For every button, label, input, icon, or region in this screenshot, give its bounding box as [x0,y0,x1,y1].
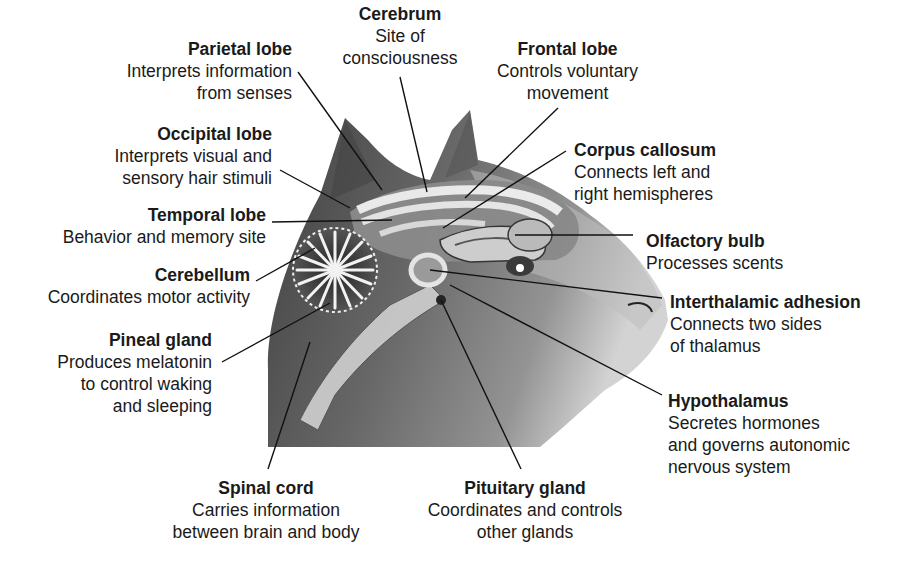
label-pineal-gland: Pineal gland Produces melatonin to contr… [20,329,212,417]
label-title: Olfactory bulb [646,230,846,252]
label-title: Frontal lobe [475,38,660,60]
label-desc: other glands [405,521,645,543]
label-desc: Coordinates motor activity [0,286,250,308]
label-title: Interthalamic adhesion [670,291,908,313]
label-desc: Carries information [148,499,384,521]
label-parietal-lobe: Parietal lobe Interprets information fro… [60,38,292,104]
label-desc: Controls voluntary [475,60,660,82]
label-desc: Produces melatonin [20,351,212,373]
label-title: Temporal lobe [20,204,266,226]
label-desc: right hemispheres [574,183,774,205]
cat-brain-diagram: Cerebrum Site of consciousness Parietal … [0,0,908,572]
cerebellum-illustration [293,228,377,312]
label-desc: and governs autonomic [668,434,898,456]
label-desc: Interprets information [60,60,292,82]
label-title: Cerebellum [0,264,250,286]
label-desc: Connects left and [574,161,774,183]
label-frontal-lobe: Frontal lobe Controls voluntary movement [475,38,660,104]
label-desc: of thalamus [670,335,908,357]
label-hypothalamus: Hypothalamus Secretes hormones and gover… [668,390,898,478]
label-cerebellum: Cerebellum Coordinates motor activity [0,264,250,308]
label-title: Spinal cord [148,477,384,499]
label-desc: Connects two sides [670,313,908,335]
label-title: Parietal lobe [60,38,292,60]
label-desc: Coordinates and controls [405,499,645,521]
label-olfactory-bulb: Olfactory bulb Processes scents [646,230,846,274]
label-desc: movement [475,82,660,104]
label-desc: nervous system [668,456,898,478]
label-desc: and sleeping [20,395,212,417]
label-desc: Processes scents [646,252,846,274]
label-title: Pituitary gland [405,477,645,499]
label-desc: Interprets visual and [60,145,272,167]
label-pituitary-gland: Pituitary gland Coordinates and controls… [405,477,645,543]
label-desc: sensory hair stimuli [60,167,272,189]
label-desc: between brain and body [148,521,384,543]
label-desc: Site of [335,25,465,47]
label-temporal-lobe: Temporal lobe Behavior and memory site [20,204,266,248]
label-spinal-cord: Spinal cord Carries information between … [148,477,384,543]
label-title: Cerebrum [335,3,465,25]
label-title: Corpus callosum [574,139,774,161]
label-interthalamic-adhesion: Interthalamic adhesion Connects two side… [670,291,908,357]
label-title: Pineal gland [20,329,212,351]
label-title: Occipital lobe [60,123,272,145]
label-desc: to control waking [20,373,212,395]
label-title: Hypothalamus [668,390,898,412]
label-corpus-callosum: Corpus callosum Connects left and right … [574,139,774,205]
label-occipital-lobe: Occipital lobe Interprets visual and sen… [60,123,272,189]
label-desc: from senses [60,82,292,104]
label-desc: Behavior and memory site [20,226,266,248]
label-desc: Secretes hormones [668,412,898,434]
label-cerebrum: Cerebrum Site of consciousness [335,3,465,69]
label-desc: consciousness [335,47,465,69]
